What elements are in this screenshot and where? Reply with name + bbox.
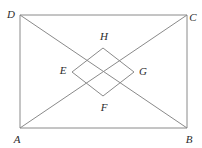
vertex-label-g: G <box>139 66 147 77</box>
vertex-label-e: E <box>60 65 67 76</box>
vertex-label-d: D <box>7 9 15 20</box>
vertex-label-h: H <box>100 31 108 42</box>
geometry-canvas <box>0 0 202 148</box>
vertex-label-b: B <box>186 134 193 145</box>
vertex-label-a: A <box>14 134 21 145</box>
geometry-figure: D C A B E F G H <box>0 0 202 148</box>
vertex-label-f: F <box>101 102 108 113</box>
vertex-label-c: C <box>189 12 196 23</box>
